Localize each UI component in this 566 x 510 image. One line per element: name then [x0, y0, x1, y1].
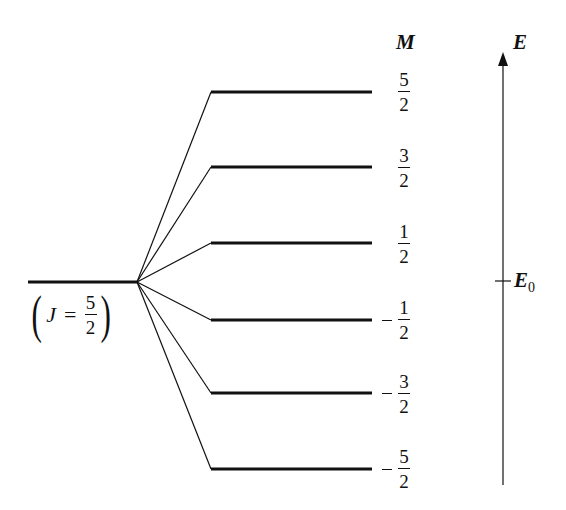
- right-paren: ): [100, 289, 110, 341]
- splitting-fan-lines: [137, 92, 211, 469]
- energy-level-diagram: [0, 0, 566, 510]
- j-value-fraction: 5 2: [85, 293, 97, 337]
- m-label-neg-5-2: 52: [397, 447, 411, 491]
- m-label-neg-1-2: 12: [397, 298, 411, 342]
- unsplit-level-label: ( J = 5 2 ): [28, 286, 114, 344]
- m-minus-sign: [382, 469, 392, 470]
- e0-label: E0: [514, 268, 535, 296]
- energy-axis-arrowhead-icon: [498, 52, 508, 66]
- energy-axis-label: E: [513, 30, 527, 55]
- m-label-5-2: 52: [397, 70, 411, 114]
- m-minus-sign: [382, 320, 392, 321]
- left-paren: (: [31, 289, 41, 341]
- split-level-lines: [211, 92, 372, 469]
- m-label-neg-3-2: 32: [397, 372, 411, 416]
- m-minus-sign: [382, 393, 392, 394]
- j-symbol: J: [46, 302, 56, 328]
- equals-sign: =: [64, 302, 76, 328]
- m-column-header: M: [396, 30, 415, 55]
- m-label-3-2: 32: [397, 146, 411, 190]
- m-label-1-2: 12: [397, 222, 411, 266]
